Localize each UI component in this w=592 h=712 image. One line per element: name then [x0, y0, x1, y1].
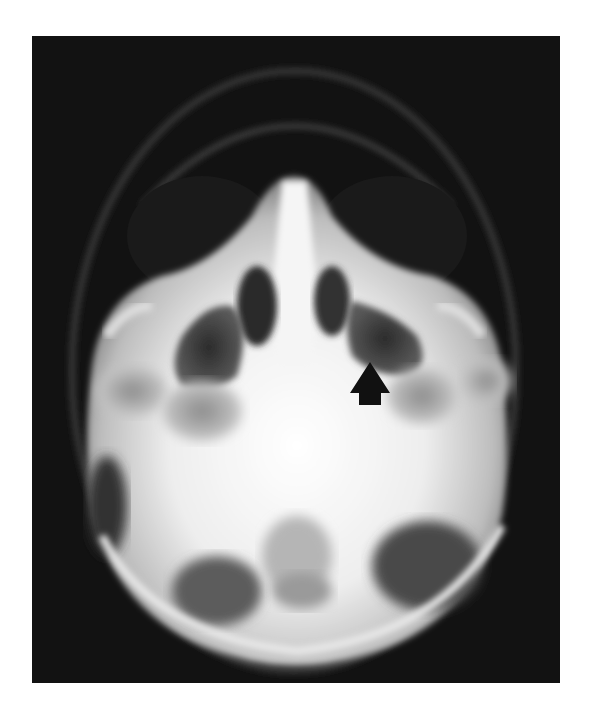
skull-radiograph — [32, 36, 560, 683]
radiograph-image — [32, 36, 560, 683]
